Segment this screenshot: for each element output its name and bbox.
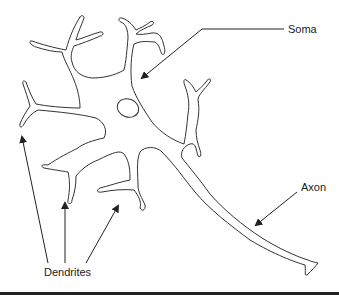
pointer-lines xyxy=(22,29,297,263)
dendrite-pointer-arrow-right xyxy=(86,206,118,263)
soma-label: Soma xyxy=(288,24,317,35)
bottom-rule xyxy=(0,292,339,295)
soma-pointer-arrow xyxy=(142,29,284,78)
dendrites-label: Dendrites xyxy=(44,267,91,278)
axon-label: Axon xyxy=(301,182,326,193)
nucleus xyxy=(115,96,142,120)
neuron-diagram: Soma Axon Dendrites xyxy=(0,0,339,301)
dendrite-pointer-arrow-left xyxy=(22,137,48,263)
neuron-illustration xyxy=(0,0,339,301)
axon-pointer-arrow xyxy=(256,192,297,225)
